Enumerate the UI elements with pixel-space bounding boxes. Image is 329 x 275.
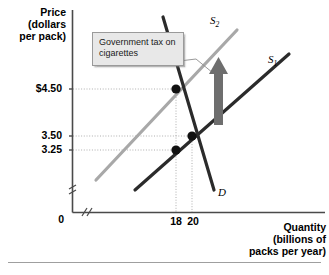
curve-label-d: D <box>218 186 226 198</box>
curve-label-s2: S2 <box>210 14 219 29</box>
y-tick-label-450: $4.50 <box>0 82 62 94</box>
bottom-divider-rule <box>8 262 321 263</box>
point-old-equilibrium <box>171 145 180 154</box>
y-tick-label-350: 3.50 <box>0 129 62 141</box>
curve-label-s1-sub: 1 <box>274 59 278 68</box>
curve-label-s2-sub: 2 <box>216 20 220 29</box>
curve-label-s1: S1 <box>268 53 277 68</box>
origin-label: 0 <box>48 214 64 226</box>
curve-s1 <box>135 54 289 190</box>
x-axis-title: Quantity (billions of packs per year) <box>222 222 326 257</box>
y-axis-title: Price (dollars per pack) <box>0 7 66 42</box>
x-tick-label-20: 20 <box>183 215 203 227</box>
y-tick-label-325: 3.25 <box>0 143 62 155</box>
cigarette-tax-supply-demand-figure: Price (dollars per pack) Quantity (billi… <box>0 0 329 275</box>
curve-label-d-text: D <box>218 186 226 198</box>
government-tax-callout: Government tax on cigarettes <box>92 32 184 66</box>
point-tax-wedge <box>187 131 196 140</box>
point-new-equilibrium <box>171 84 180 93</box>
supply-shift-arrow <box>209 57 228 125</box>
